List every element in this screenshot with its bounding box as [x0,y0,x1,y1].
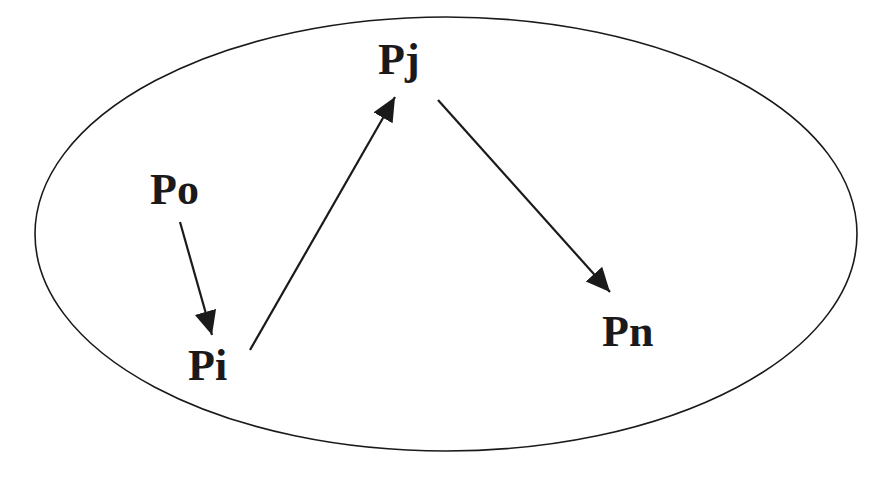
node-pj-label: Pj [378,38,420,82]
edge-po-pi-arrow [180,222,212,335]
node-pi-label: Pi [188,344,227,388]
container-ellipse [35,17,857,451]
node-pn-label: Pn [602,310,653,354]
diagram-canvas [0,0,879,478]
edge-pi-pj-arrow [250,97,395,350]
node-po-label: Po [150,168,199,212]
edge-pj-pn-arrow [438,100,610,292]
